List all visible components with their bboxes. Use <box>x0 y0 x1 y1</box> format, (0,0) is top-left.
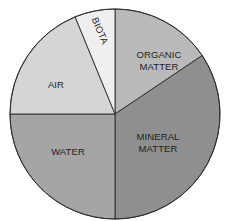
pie-slices <box>10 9 220 219</box>
pie-slice-water <box>10 114 115 219</box>
slice-label-organic-matter: ORGANICMATTER <box>136 49 181 72</box>
slice-label-air: AIR <box>48 79 64 90</box>
slice-label-mineral-matter: MINERALMATTER <box>137 131 180 154</box>
pie-chart: ORGANICMATTERMINERALMATTERWATERAIRBIOTA <box>0 0 227 221</box>
slice-label-water: WATER <box>51 146 85 157</box>
